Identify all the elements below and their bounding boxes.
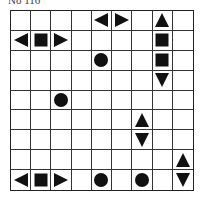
grid-cell[interactable] [173,170,193,190]
grid-cell[interactable] [132,150,152,170]
ship-right-end-icon [53,172,69,188]
grid-cell[interactable] [153,91,173,111]
grid-cell[interactable] [92,91,112,111]
grid-cell[interactable] [11,91,31,111]
ship-left-end-icon [13,32,29,48]
grid-cell[interactable] [132,71,152,91]
grid-cell[interactable] [72,71,92,91]
grid-cell[interactable] [72,110,92,130]
ship-left-end-icon [93,12,109,28]
ship-bottom-end-icon [134,132,150,148]
grid-cell[interactable] [153,51,173,71]
grid-cell[interactable] [92,170,112,190]
submarine-icon [93,52,109,68]
grid-cell[interactable] [173,110,193,130]
grid-cell[interactable] [132,11,152,31]
grid-cell[interactable] [72,31,92,51]
grid-cell[interactable] [92,71,112,91]
grid-cell[interactable] [11,130,31,150]
grid-cell[interactable] [51,11,71,31]
grid-cell[interactable] [173,71,193,91]
grid-cell[interactable] [92,51,112,71]
grid-cell[interactable] [51,91,71,111]
grid-cell[interactable] [72,130,92,150]
ship-top-end-icon [175,152,191,168]
grid-cell[interactable] [92,31,112,51]
grid-cell[interactable] [173,31,193,51]
grid-cell[interactable] [153,11,173,31]
grid-cell[interactable] [31,51,51,71]
grid-cell[interactable] [11,170,31,190]
ship-middle-icon [33,32,49,48]
grid-cell[interactable] [153,130,173,150]
grid-cell[interactable] [112,110,132,130]
grid-cell[interactable] [31,110,51,130]
ship-bottom-end-icon [154,72,170,88]
grid-cell[interactable] [153,110,173,130]
grid-cell[interactable] [153,31,173,51]
grid-cell[interactable] [112,71,132,91]
grid-cell[interactable] [173,51,193,71]
grid-cell[interactable] [31,31,51,51]
grid-cell[interactable] [11,31,31,51]
grid-cell[interactable] [112,51,132,71]
grid-cell[interactable] [153,170,173,190]
ship-top-end-icon [134,112,150,128]
grid-cell[interactable] [31,71,51,91]
grid-cell[interactable] [51,51,71,71]
grid-cell[interactable] [31,11,51,31]
grid-cell[interactable] [51,71,71,91]
ship-right-end-icon [53,32,69,48]
grid-cell[interactable] [72,170,92,190]
grid-cell[interactable] [51,170,71,190]
puzzle-title: No 116 [8,0,40,6]
grid-cell[interactable] [112,170,132,190]
grid-cell[interactable] [92,150,112,170]
grid-cell[interactable] [112,130,132,150]
grid-cell[interactable] [31,130,51,150]
grid-cell[interactable] [51,110,71,130]
grid-cell[interactable] [51,31,71,51]
ship-left-end-icon [13,172,29,188]
grid-cell[interactable] [112,91,132,111]
submarine-icon [134,172,150,188]
grid-cell[interactable] [173,150,193,170]
grid-cell[interactable] [132,130,152,150]
grid-cell[interactable] [173,130,193,150]
ship-bottom-end-icon [175,172,191,188]
battleship-grid [10,10,194,191]
grid-cell[interactable] [92,110,112,130]
grid-cell[interactable] [72,51,92,71]
grid-cell[interactable] [132,170,152,190]
ship-middle-icon [154,32,170,48]
grid-cell[interactable] [132,31,152,51]
grid-cell[interactable] [153,71,173,91]
ship-middle-icon [154,52,170,68]
submarine-icon [93,172,109,188]
grid-cell[interactable] [153,150,173,170]
grid-cell[interactable] [11,110,31,130]
grid-cell[interactable] [11,71,31,91]
grid-cell[interactable] [173,91,193,111]
grid-cell[interactable] [51,130,71,150]
grid-cell[interactable] [11,11,31,31]
grid-cell[interactable] [92,130,112,150]
grid-cell[interactable] [132,51,152,71]
grid-cell[interactable] [132,91,152,111]
grid-cell[interactable] [112,31,132,51]
grid-cell[interactable] [11,150,31,170]
grid-cell[interactable] [11,51,31,71]
grid-cell[interactable] [51,150,71,170]
grid-cell[interactable] [31,150,51,170]
grid-cell[interactable] [132,110,152,130]
grid-cell[interactable] [31,91,51,111]
ship-middle-icon [33,172,49,188]
grid-cell[interactable] [72,11,92,31]
grid-cell[interactable] [72,91,92,111]
grid-cell[interactable] [72,150,92,170]
grid-cell[interactable] [112,11,132,31]
grid-cell[interactable] [92,11,112,31]
grid-cell[interactable] [112,150,132,170]
grid-cell[interactable] [173,11,193,31]
grid-cell[interactable] [31,170,51,190]
